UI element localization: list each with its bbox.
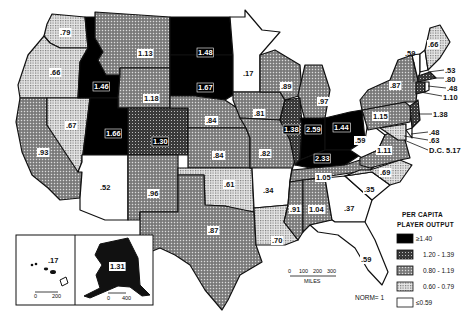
label-NJ: 1.38 [433,110,448,119]
label-NH: .53 [445,66,455,75]
state-MT [95,12,170,75]
label-WV: .59 [355,136,365,145]
legend-swatch-dark [397,250,413,259]
label-AZ: .52 [100,183,110,192]
scale-bar: 0 100 200 300 MILES [288,268,336,284]
label-ND: 1.48 [198,48,213,57]
label-LA: .70 [272,236,282,245]
label-TN: 1.05 [316,173,331,182]
label-NV: .67 [66,121,76,130]
label-RI: .48 [447,84,457,93]
label-CA: .93 [38,148,48,157]
label-TX: .87 [208,226,218,235]
state-KS [188,128,250,168]
label-MD: .63 [429,136,439,145]
label-DC: D.C. 5.17 [429,146,461,155]
legend-label-1: 1.20 - 1.39 [423,251,454,258]
alaska-scale-0: 0 [107,295,110,301]
label-HI: .17 [48,256,58,265]
label-WA: .79 [60,28,70,37]
legend-swatch-light [397,282,413,291]
label-MT: 1.13 [138,49,153,58]
label-NE: .84 [206,116,217,125]
legend-label-0: ≥1.40 [416,235,433,242]
label-OK: .61 [224,180,234,189]
us-choropleth-map: .79 .66 .93 .67 1.46 1.13 1.18 1.66 1.30… [0,0,470,325]
label-GA: .37 [344,204,354,213]
inset-frame: .17 0 200 1.31 0 400 [16,235,153,305]
label-UT: 1.66 [106,129,121,138]
scale-tick-200: 200 [313,268,322,274]
label-CT: 1.10 [443,93,458,102]
label-PA: 1.15 [373,112,388,121]
scale-tick-100: 100 [299,268,308,274]
label-VA: 1.11 [377,146,391,155]
label-NY: .87 [390,81,400,90]
label-CO: 1.30 [153,137,168,146]
state-MI [298,65,330,120]
label-KS: .84 [213,151,224,160]
state-RI [425,82,429,92]
legend-swatch-black [397,234,413,243]
state-WI [260,50,302,100]
legend-label-2: 0.80 - 1.19 [423,267,454,274]
label-NC: .69 [380,168,390,177]
state-FL [310,220,388,285]
label-SD: 1.67 [198,83,213,92]
alaska-scale-400: 400 [122,295,131,301]
legend-swatch-white [397,298,413,307]
legend-title-line1: PER CAPITA [402,211,443,218]
label-ID: 1.46 [94,82,109,91]
scale-tick-0: 0 [288,268,291,274]
label-AR: .34 [263,186,274,195]
legend-title-line2: PLAYER OUTPUT [397,221,454,228]
label-OH: 1.44 [334,123,349,132]
label-KY: 2.33 [315,154,330,163]
scale-tick-300: 300 [327,268,336,274]
hawaii-scale-200: 200 [52,293,61,299]
label-IL: 1.38 [284,125,299,134]
state-CO [128,108,188,155]
label-MA: .80 [445,75,455,84]
legend: PER CAPITA PLAYER OUTPUT ≥1.40 1.20 - 1.… [397,211,454,307]
state-MA [418,72,436,82]
scale-unit: MILES [304,278,321,284]
label-FL: .59 [361,255,371,264]
label-AK: 1.31 [110,262,125,271]
label-WI: .89 [281,82,291,91]
label-MI: .97 [318,97,328,106]
norm-label: NORM= 1 [355,294,384,301]
label-SC: .35 [364,185,374,194]
label-NM: .96 [148,189,158,198]
label-OR: .66 [50,68,60,77]
label-MO: .82 [260,149,270,158]
label-WY: 1.18 [144,94,159,103]
state-NM [128,155,178,220]
legend-label-3: 0.60 - 0.79 [423,283,454,290]
label-AL: 1.04 [309,205,324,214]
label-IN: 2.59 [306,125,321,134]
label-MS: .91 [290,205,300,214]
label-MN: .17 [243,69,253,78]
legend-swatch-medium [397,266,413,275]
legend-label-4: ≤0.59 [416,299,433,306]
state-SD [170,55,233,100]
hawaii-scale-0: 0 [34,293,37,299]
label-IA: .81 [254,109,264,118]
label-ME: .66 [428,40,438,49]
label-VT: .59 [405,49,415,58]
